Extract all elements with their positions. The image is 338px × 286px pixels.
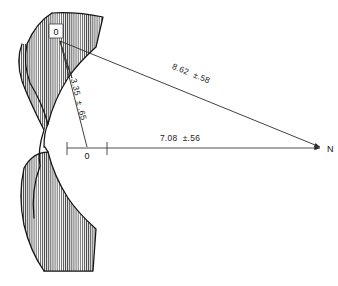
lower-lobe-hatch-fill xyxy=(16,146,116,278)
origin-vertex-label: 0 xyxy=(84,151,89,161)
hypotenuse-line xyxy=(60,41,320,147)
apex-vertex-label: 0 xyxy=(53,27,58,37)
hypotenuse-dimension-label: 8.62 ±.58 xyxy=(171,61,212,85)
measurement-figure: 0 0 N 8.62 ±.58 3.35 ± .65 7.08 ±.56 xyxy=(0,0,338,286)
hatched-crescent-region xyxy=(16,6,116,278)
figure-canvas: 0 0 N 8.62 ±.58 3.35 ± .65 7.08 ±.56 xyxy=(0,0,338,286)
baseline-dimension-label: 7.08 ±.56 xyxy=(160,133,200,143)
vertical-offset-dimension-label: 3.35 ± .65 xyxy=(69,77,89,121)
terminus-vertex-label: N xyxy=(327,144,334,154)
